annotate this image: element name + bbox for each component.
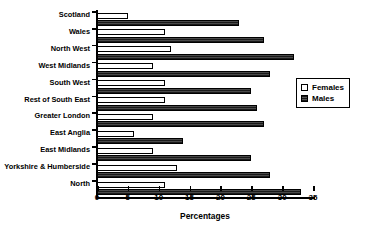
chart-category-row: North West: [97, 45, 313, 62]
x-axis-tick-label: 0: [95, 193, 99, 202]
bar-females: [97, 114, 153, 120]
bar-females: [97, 80, 165, 86]
bar-females: [97, 97, 165, 103]
bar-females: [97, 131, 134, 137]
category-label: Wales: [69, 27, 90, 36]
bar-males: [97, 54, 294, 60]
x-axis-tick: [190, 186, 192, 191]
chart-category-row: West Midlands: [97, 62, 313, 79]
legend-label-females: Females: [312, 83, 344, 92]
legend-item-males: Males: [301, 93, 344, 104]
category-label: Yorkshire & Humberside: [4, 162, 90, 171]
chart-category-row: Wales: [97, 28, 313, 45]
x-axis-tick: [159, 186, 161, 191]
bar-males: [97, 105, 257, 111]
chart-category-row: Yorkshire & Humberside: [97, 163, 313, 180]
bar-females: [97, 148, 153, 154]
legend-swatch-males-icon: [301, 95, 308, 102]
category-label: North: [70, 179, 90, 188]
bar-males: [97, 172, 270, 178]
x-axis-tick-label: 25: [247, 193, 256, 202]
plot-area: ScotlandWalesNorth WestWest MidlandsSout…: [97, 11, 313, 197]
category-label: Rest of South East: [24, 95, 90, 104]
bar-females: [97, 165, 177, 171]
category-label: West Midlands: [38, 61, 90, 70]
x-axis-tick: [313, 186, 315, 191]
x-axis-tick-label: 30: [278, 193, 287, 202]
bar-males: [97, 138, 183, 144]
x-axis-tick-label: 20: [216, 193, 225, 202]
chart-legend: Females Males: [296, 78, 350, 108]
x-axis-tick-label: 15: [185, 193, 194, 202]
x-axis-tick-label: 5: [126, 193, 130, 202]
chart-category-row: East Midlands: [97, 146, 313, 163]
bar-females: [97, 13, 128, 19]
x-axis-tick: [220, 186, 222, 191]
bar-males: [97, 121, 264, 127]
bar-females: [97, 46, 171, 52]
chart-category-row: Rest of South East: [97, 96, 313, 113]
x-axis-tick: [128, 186, 130, 191]
category-label: North West: [51, 44, 90, 53]
bar-males: [97, 88, 251, 94]
legend-item-females: Females: [301, 82, 344, 93]
category-label: East Anglia: [50, 128, 90, 137]
bar-females: [97, 63, 153, 69]
chart-category-row: South West: [97, 79, 313, 96]
legend-swatch-females-icon: [301, 84, 308, 91]
x-axis-tick-label: 10: [154, 193, 163, 202]
category-label: South West: [49, 78, 90, 87]
bar-females: [97, 182, 165, 188]
category-label: East Midlands: [40, 145, 90, 154]
bar-males: [97, 71, 270, 77]
x-axis-tick: [282, 186, 284, 191]
chart-category-row: East Anglia: [97, 129, 313, 146]
chart-category-row: Scotland: [97, 11, 313, 28]
x-axis-tick-label: 35: [309, 193, 318, 202]
bar-chart: ScotlandWalesNorth WestWest MidlandsSout…: [0, 0, 366, 245]
bar-males: [97, 37, 264, 43]
x-axis-title: Percentages: [97, 211, 313, 221]
legend-label-males: Males: [312, 94, 334, 103]
bar-males: [97, 20, 239, 26]
bar-females: [97, 29, 165, 35]
bar-males: [97, 155, 251, 161]
chart-category-row: Greater London: [97, 112, 313, 129]
category-label: Greater London: [35, 111, 90, 120]
x-axis-tick: [97, 186, 99, 191]
x-axis-tick: [251, 186, 253, 191]
category-label: Scotland: [59, 10, 90, 19]
